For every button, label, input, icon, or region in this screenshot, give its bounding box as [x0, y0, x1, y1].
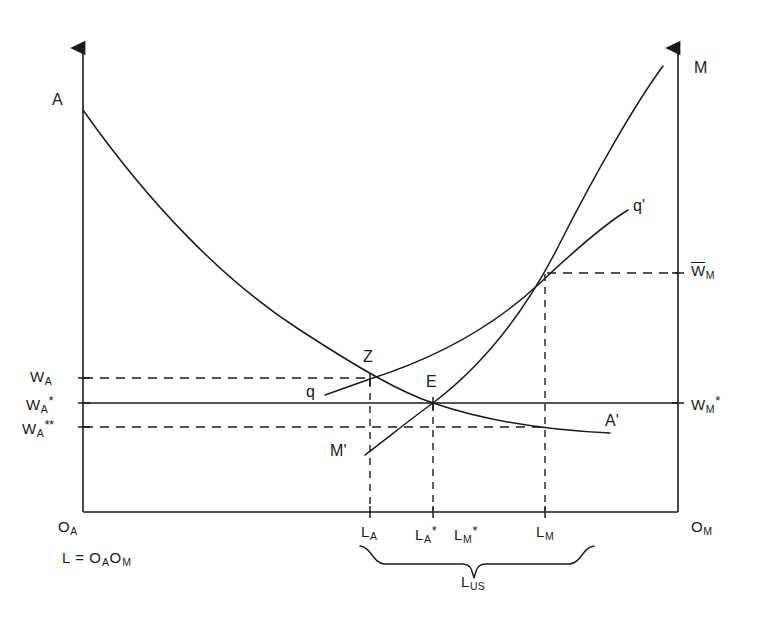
axis-label-wm-bar: WM	[691, 262, 715, 280]
curve-label-M-prime: M'	[330, 443, 347, 459]
wastarstar-sub: A	[36, 427, 44, 439]
lastar-sub: A	[424, 533, 432, 545]
figure-root: A A' M M' q q' Z E WA WA* WA** WM WM* OA…	[0, 0, 765, 621]
oa-sub: A	[70, 525, 78, 537]
om-base: O	[691, 518, 703, 535]
lmstar-sub: M	[463, 533, 472, 545]
origin-label-oa: OA	[58, 519, 77, 536]
lm-base: L	[536, 523, 545, 540]
point-label-Z: Z	[363, 349, 373, 365]
wa-sub: A	[44, 375, 52, 387]
wastarstar-star: **	[44, 417, 54, 432]
lmstar-base: L	[454, 526, 463, 543]
brace-label-lus: LUS	[461, 574, 485, 591]
origin-label-om: OM	[691, 519, 712, 536]
axis-label-wa-star: WA*	[26, 394, 53, 415]
curve-q	[325, 210, 628, 395]
axis-label-la: LA	[361, 524, 377, 541]
axis-label-lm-star: LM*	[454, 524, 477, 545]
wmstar-star: *	[715, 393, 720, 408]
curve-label-q: q	[306, 384, 315, 400]
curve-label-A: A	[52, 92, 63, 108]
om-sub: M	[703, 525, 712, 537]
la-base: L	[361, 523, 370, 540]
la-sub: A	[370, 530, 378, 542]
oa-base: O	[58, 518, 70, 535]
lastar-base: L	[415, 526, 424, 543]
axis-label-lm: LM	[536, 524, 554, 541]
caption-sub1: A	[102, 556, 110, 568]
point-label-E: E	[426, 374, 437, 390]
lm-sub: M	[545, 530, 554, 542]
wmbar-sub: M	[705, 269, 714, 281]
wastar-sub: A	[40, 403, 48, 415]
curve-label-q-prime: q'	[633, 198, 645, 214]
axis-label-la-star: LA*	[415, 524, 436, 545]
diagram-canvas	[0, 0, 765, 621]
lastar-star: *	[431, 523, 436, 538]
curve-M	[365, 66, 663, 455]
axis-label-wm-star: WM*	[691, 394, 720, 415]
axis-label-wa: WA	[30, 369, 52, 386]
lmstar-star: *	[472, 523, 477, 538]
caption-sub2: M	[122, 556, 132, 568]
wmstar-sub: M	[705, 403, 714, 415]
wmstar-base: W	[691, 396, 705, 413]
figure-caption: L = OAOM	[62, 550, 132, 567]
wastar-base: W	[26, 396, 40, 413]
wa-base: W	[30, 368, 44, 385]
lus-base: L	[461, 573, 470, 590]
curve-A	[83, 110, 610, 433]
wastarstar-base: W	[22, 420, 36, 437]
caption-mid: O	[110, 549, 122, 566]
wastar-star: *	[48, 393, 53, 408]
lus-sub: US	[470, 580, 485, 592]
wmbar-base: W	[691, 262, 705, 279]
caption-prefix: L = O	[62, 549, 102, 566]
axis-label-wa-doublestar: WA**	[22, 418, 54, 439]
curve-label-M: M	[694, 60, 708, 76]
curve-label-A-prime: A'	[605, 413, 619, 429]
